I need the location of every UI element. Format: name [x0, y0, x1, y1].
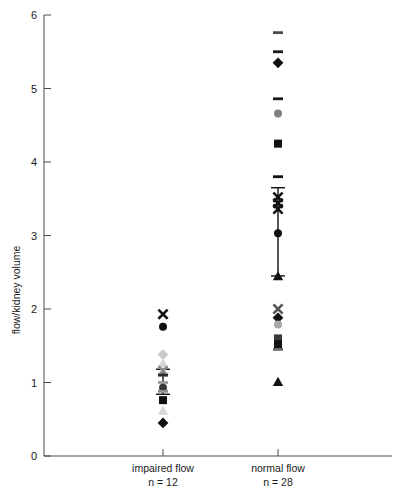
data-point-dash	[273, 97, 283, 100]
data-point-dash	[273, 50, 283, 53]
data-point-triangle	[273, 377, 283, 386]
data-point-x	[158, 310, 167, 319]
data-point-dash	[273, 175, 283, 178]
y-tick-label-5: 5	[31, 83, 37, 95]
data-point-circle	[274, 229, 282, 237]
y-axis-title: flow/kidney volume	[10, 245, 22, 334]
x-axis-category-labels: impaired flow n = 12 normal flow n = 28	[132, 462, 305, 488]
x-axis-ticks	[163, 449, 278, 456]
data-point-dash	[273, 348, 283, 351]
data-point-square	[274, 340, 282, 348]
y-tick-label-1: 1	[31, 377, 37, 389]
y-tick-label-4: 4	[31, 156, 37, 168]
group-normal-flow	[271, 31, 285, 386]
data-point-square	[274, 140, 282, 148]
data-point-circle	[159, 323, 167, 331]
y-tick-label-6: 6	[31, 9, 37, 21]
data-point-diamond	[158, 349, 169, 360]
data-point-dash	[158, 374, 168, 377]
group-impaired-flow	[156, 310, 170, 429]
x-label-impaired-flow: impaired flow	[132, 462, 194, 474]
data-point-x	[273, 304, 282, 313]
data-point-dash	[273, 31, 283, 34]
x-label-normal-flow: normal flow	[251, 462, 305, 474]
plot-canvas: flow/kidney volume 6 5 4 3 2 1 0	[0, 0, 401, 494]
x-sublabel-normal-flow-n: n = 28	[263, 476, 293, 488]
y-tick-label-3: 3	[31, 230, 37, 242]
scatter-plot-figure: flow/kidney volume 6 5 4 3 2 1 0	[0, 0, 401, 494]
data-point-diamond	[158, 418, 169, 429]
data-point-dash	[158, 381, 168, 384]
x-sublabel-impaired-flow-n: n = 12	[148, 476, 178, 488]
data-point-diamond	[273, 57, 284, 68]
data-point-circle	[274, 109, 282, 117]
data-point-dash	[158, 390, 168, 393]
y-axis-ticks	[44, 15, 51, 456]
data-point-square	[159, 396, 167, 404]
data-points-layer	[156, 31, 285, 428]
y-axis-tick-labels: 6 5 4 3 2 1 0	[31, 9, 37, 462]
y-tick-label-2: 2	[31, 303, 37, 315]
data-point-circle	[274, 320, 282, 328]
data-point-triangle	[158, 405, 168, 414]
y-tick-label-0: 0	[31, 450, 37, 462]
